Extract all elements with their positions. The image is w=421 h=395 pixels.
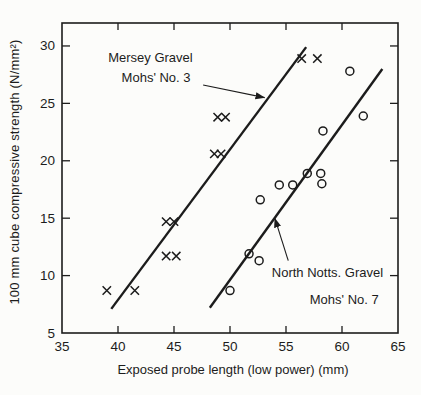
data-point-circle-marker — [255, 257, 263, 265]
x-axis-label: Exposed probe length (low power) (mm) — [117, 362, 348, 377]
y-tick-label: 10 — [40, 268, 55, 283]
y-axis-label: 100 mm cube compressive strength (N/mm²) — [7, 39, 22, 304]
data-point-x-marker — [131, 286, 139, 294]
annotation-north-notts-line1: North Notts. Gravel — [272, 265, 383, 280]
data-point-x-marker — [213, 113, 221, 121]
data-point-x-marker — [221, 113, 229, 121]
data-point-x-marker — [172, 252, 180, 260]
data-point-circle-marker — [226, 287, 234, 295]
y-tick-label: 15 — [40, 211, 55, 226]
data-point-circle-marker — [275, 181, 283, 189]
annotation-arrow-mersey — [203, 85, 265, 98]
x-tick-label: 35 — [54, 339, 69, 354]
data-point-x-marker — [217, 150, 225, 158]
x-tick-label: 45 — [166, 339, 181, 354]
data-point-circle-marker — [256, 196, 264, 204]
y-tick-label: 25 — [40, 96, 55, 111]
x-tick-label: 55 — [278, 339, 293, 354]
annotation-north-notts-line2: Mohs' No. 7 — [310, 291, 379, 306]
data-point-circle-marker — [289, 181, 297, 189]
annotation-mersey-gravel-line2: Mohs' No. 3 — [122, 69, 191, 84]
data-point-circle-marker — [317, 169, 325, 177]
annotation-arrow-north-notts — [275, 218, 288, 260]
data-point-x-marker — [162, 217, 170, 225]
data-point-circle-marker — [319, 127, 327, 135]
plot-area: 3540455055606551015202530 — [0, 0, 421, 395]
data-point-circle-marker — [318, 180, 326, 188]
data-point-x-marker — [162, 252, 170, 260]
data-point-circle-marker — [359, 112, 367, 120]
x-tick-label: 40 — [110, 339, 125, 354]
scatter-chart-figure: 3540455055606551015202530 100 mm cube co… — [0, 0, 421, 395]
y-tick-label: 20 — [40, 153, 55, 168]
x-tick-label: 60 — [334, 339, 349, 354]
annotation-mersey-gravel-line1: Mersey Gravel — [108, 50, 193, 65]
data-point-x-marker — [313, 54, 321, 62]
data-point-circle-marker — [346, 67, 354, 75]
x-tick-label: 50 — [222, 339, 237, 354]
y-tick-label: 30 — [40, 38, 55, 53]
x-tick-label: 65 — [390, 339, 405, 354]
y-tick-label: 5 — [47, 326, 55, 341]
data-point-x-marker — [103, 286, 111, 294]
